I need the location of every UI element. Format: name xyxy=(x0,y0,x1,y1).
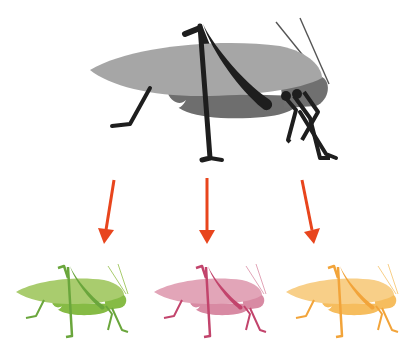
fore-leg xyxy=(382,308,398,332)
leg-joint xyxy=(281,91,291,101)
katydid-green xyxy=(16,264,128,337)
hind-foot xyxy=(210,158,222,160)
katydid-pink xyxy=(154,264,266,337)
arrow-left xyxy=(98,180,114,244)
arrow-right xyxy=(302,180,320,244)
fore-leg xyxy=(250,308,266,332)
fore-leg xyxy=(112,308,128,332)
far-hind-leg xyxy=(328,266,338,278)
arrows-group xyxy=(0,170,408,250)
rear-left-leg xyxy=(26,300,44,318)
abdomen xyxy=(168,92,300,118)
far-hind-leg xyxy=(58,266,68,278)
rear-left-leg xyxy=(112,88,150,126)
katydid-pink-illustration xyxy=(138,250,278,349)
katydid-yellow xyxy=(286,264,398,337)
rear-left-leg xyxy=(164,300,182,318)
katydid-gray xyxy=(90,18,336,160)
arrow-middle xyxy=(199,178,215,244)
far-hind-leg xyxy=(196,266,206,278)
katydid-yellow-illustration xyxy=(270,250,408,349)
katydid-green-illustration xyxy=(0,250,140,349)
rear-left-leg xyxy=(296,300,314,318)
katydid-gray-illustration xyxy=(0,0,408,175)
leg-joint xyxy=(292,89,302,99)
